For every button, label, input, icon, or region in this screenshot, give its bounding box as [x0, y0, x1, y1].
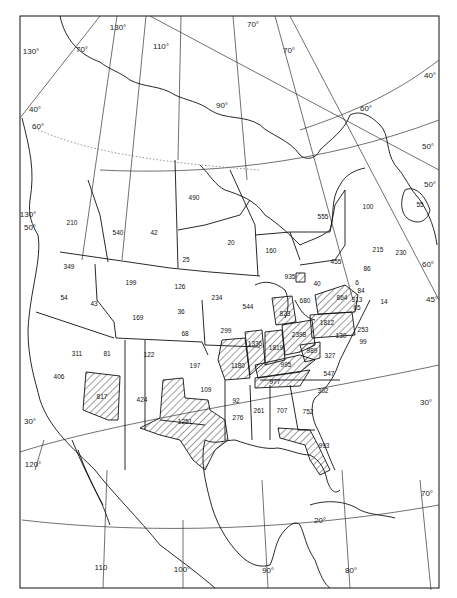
graticule: [20, 16, 439, 590]
graticule-label: 60°: [32, 123, 44, 131]
graticule-label: 50°: [424, 181, 436, 189]
graticule-label: 40°: [424, 72, 436, 80]
graticule-label: 60°: [422, 261, 434, 269]
region-value-1180: 1180: [231, 363, 245, 370]
region-value-540: 540: [113, 230, 124, 237]
map-frame: [20, 16, 439, 588]
region-value-43: 43: [90, 301, 97, 308]
region-value-36: 36: [177, 309, 184, 316]
region-value-122: 122: [144, 352, 155, 359]
region-value-349: 349: [64, 264, 75, 271]
region-value-276: 276: [233, 415, 244, 422]
region-value-253: 253: [358, 327, 369, 334]
region-value-490: 490: [189, 195, 200, 202]
graticule-label: 90°: [262, 567, 274, 575]
graticule-label: 110: [95, 564, 108, 572]
region-value-100: 100: [363, 204, 374, 211]
graticule-label: 70°: [76, 46, 88, 54]
region-value-752: 752: [303, 409, 314, 416]
region-value-160: 160: [266, 248, 277, 255]
region-value-92: 92: [232, 398, 239, 405]
region-value-311: 311: [72, 351, 82, 358]
graticule-label: 30°: [24, 418, 36, 426]
region-value-215: 215: [373, 247, 384, 254]
region-value-823: 823: [280, 311, 291, 318]
region-value-680: 680: [300, 298, 311, 305]
region-value-935: 935: [285, 274, 296, 281]
region-value-299: 299: [221, 328, 232, 335]
region-value-130: 130: [336, 333, 347, 340]
north-america-map: [0, 0, 457, 598]
region-value-1336: 1336: [248, 341, 262, 348]
region-value-989: 989: [307, 348, 318, 355]
graticule-label: 70°: [283, 47, 295, 55]
region-value-25: 25: [182, 257, 189, 264]
graticule-label: 130°: [23, 48, 40, 56]
region-value-55: 55: [416, 202, 423, 209]
region-value-210: 210: [67, 220, 78, 227]
graticule-label: 60°: [360, 105, 372, 113]
graticule-label: 50°: [422, 143, 434, 151]
region-value-544: 544: [243, 304, 254, 311]
region-value-20: 20: [227, 240, 234, 247]
region-1180: [218, 338, 250, 380]
graticule-label: 50°: [24, 224, 36, 232]
region-993: [278, 428, 330, 475]
region-value-14: 14: [380, 299, 387, 306]
region-value-1819: 1819: [269, 345, 283, 352]
graticule-label: 80°: [345, 567, 357, 575]
region-value-68: 68: [181, 331, 188, 338]
region-value-169: 169: [133, 315, 144, 322]
region-value-42: 42: [150, 230, 157, 237]
region-value-424: 424: [137, 397, 148, 404]
region-value-995: 995: [281, 362, 292, 369]
region-value-6: 6: [355, 280, 359, 287]
region-935-box: [296, 273, 305, 282]
region-value-1812: 1812: [320, 320, 334, 327]
region-value-234: 234: [212, 295, 223, 302]
graticule-label: 90°: [216, 102, 228, 110]
graticule-label: 110°: [153, 43, 169, 51]
hatched-regions: [83, 273, 358, 475]
region-value-313: 313: [352, 297, 363, 304]
region-value-547: 547: [324, 371, 335, 378]
region-value-327: 327: [325, 353, 336, 360]
region-value-555: 555: [318, 214, 329, 221]
region-value-993: 993: [319, 443, 330, 450]
region-value-261: 261: [254, 408, 265, 415]
region-value-65: 65: [353, 305, 360, 312]
region-value-455: 455: [331, 259, 342, 266]
graticule-label: 130°: [20, 211, 37, 219]
region-value-109: 109: [201, 387, 212, 394]
region-value-707: 707: [277, 408, 288, 415]
region-value-54: 54: [60, 295, 67, 302]
region-value-84: 84: [357, 288, 364, 295]
graticule-label: 45°: [426, 296, 438, 304]
graticule-label: 70°: [247, 21, 259, 29]
region-value-2398: 2398: [292, 332, 306, 339]
coastlines: [22, 16, 437, 588]
region-value-99: 99: [359, 339, 366, 346]
region-value-230: 230: [396, 250, 407, 257]
region-value-977: 977: [270, 379, 281, 386]
region-value-81: 81: [103, 351, 110, 358]
region-value-406: 406: [54, 374, 65, 381]
region-value-302: 302: [318, 388, 329, 395]
region-value-864: 864: [337, 295, 348, 302]
graticule-label: 130°: [110, 24, 127, 32]
graticule-label: 120°: [25, 461, 42, 469]
graticule-label: 20°: [314, 517, 326, 525]
region-value-86: 86: [363, 266, 370, 273]
graticule-label: 40°: [29, 106, 41, 114]
graticule-label: 30°: [420, 399, 432, 407]
graticule-label: 70°: [421, 490, 433, 498]
region-value-199: 199: [126, 280, 137, 287]
latitude-60-line: [35, 128, 260, 170]
graticule-label: 100°: [174, 566, 191, 574]
region-value-40: 40: [313, 281, 320, 288]
region-value-126: 126: [175, 284, 186, 291]
region-value-1251: 1251: [178, 419, 192, 426]
region-value-817: 817: [97, 394, 108, 401]
region-value-197: 197: [190, 363, 201, 370]
